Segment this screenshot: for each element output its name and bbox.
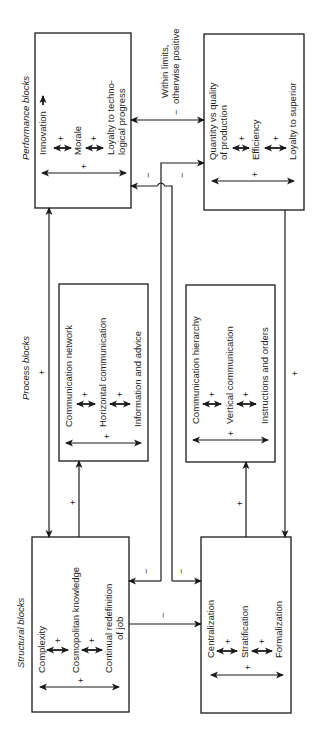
item-communication-network: Communication network xyxy=(63,325,74,427)
box-performance-left: Innovation Morale Loyalty to techno- log… xyxy=(35,33,131,208)
item-continual-redefinition-2: of job xyxy=(114,617,125,640)
item-horizontal-communication: Horizontal communication xyxy=(97,318,108,427)
sign-plus: + xyxy=(250,172,260,177)
sign-plus: + xyxy=(257,639,267,644)
item-stratification: Stratification xyxy=(239,606,250,658)
process-right-up-sign: + xyxy=(235,501,245,506)
sign-plus: + xyxy=(226,431,236,436)
cross-bottom-left-sign: − xyxy=(141,569,151,574)
sign-plus: + xyxy=(271,136,281,141)
cross-bottom-right-sign: − xyxy=(176,569,186,574)
box-process-right: Communication hierarchy Vertical communi… xyxy=(186,285,275,462)
box-performance-right: Quantity vs quality of production Effici… xyxy=(204,34,304,210)
performance-link-label-2: otherwise positive xyxy=(170,28,181,104)
item-centralization: Centralization xyxy=(205,600,216,658)
section-label-process: Process blocks xyxy=(20,336,31,400)
sign-plus: + xyxy=(241,392,251,397)
sign-plus: + xyxy=(79,164,89,169)
box-structural-right: Centralization Stratification Formalizat… xyxy=(201,537,291,713)
sign-plus: + xyxy=(223,639,233,644)
item-morale: Morale xyxy=(72,126,83,155)
sign-plus: + xyxy=(76,678,86,683)
item-communication-hierarchy: Communication hierarchy xyxy=(190,316,201,424)
left-vertical-sign: + xyxy=(37,370,47,375)
right-vertical-sign: + xyxy=(290,371,300,376)
sign-plus: + xyxy=(102,434,112,439)
item-loyalty-techno-2: logical progress xyxy=(116,88,127,155)
sign-plus: + xyxy=(56,136,66,141)
section-label-structural: Structural blocks xyxy=(15,598,26,668)
item-efficiency: Efficiency xyxy=(250,119,261,160)
sign-plus: + xyxy=(243,665,253,670)
box-structural-left: Complexity Cosmopolitan knowledge Contin… xyxy=(32,537,129,712)
item-vertical-communication: Vertical communication xyxy=(224,326,235,424)
sign-plus: + xyxy=(237,136,247,141)
item-information-advice: Information and advice xyxy=(132,331,143,427)
section-label-performance: Performance blocks xyxy=(20,76,31,160)
sign-plus: + xyxy=(89,136,99,141)
item-instructions-orders: Instructions and orders xyxy=(259,327,270,424)
cross-top-right-sign: − xyxy=(177,173,187,178)
sign-plus: + xyxy=(53,638,63,643)
process-left-up-sign: + xyxy=(68,500,78,505)
sign-plus: + xyxy=(207,392,217,397)
cross-top-left-sign: − xyxy=(143,173,153,178)
item-continual-redefinition-1: Continual redefinition xyxy=(103,584,114,673)
item-quantity-quality-2: of production xyxy=(218,105,229,160)
item-loyalty-techno-1: Loyalty to techno- xyxy=(105,80,116,155)
organizational-diagram: Performance blocks Process blocks Struct… xyxy=(0,0,317,738)
sign-plus: + xyxy=(87,638,97,643)
item-formalization: Formalization xyxy=(273,601,284,658)
performance-link-label-1: Within limits, xyxy=(159,45,170,98)
item-complexity: Complexity xyxy=(36,626,47,673)
performance-link-sign: − xyxy=(171,110,181,115)
sign-plus: + xyxy=(115,392,125,397)
sign-plus: + xyxy=(80,392,90,397)
item-innovation: Innovation xyxy=(37,111,48,155)
item-quantity-quality-1: Quantity vs quality xyxy=(207,82,218,160)
item-cosmopolitan-knowledge: Cosmopolitan knowledge xyxy=(70,567,81,673)
structural-link-sign: − xyxy=(158,613,168,618)
item-loyalty-superior: Loyalty to superior xyxy=(287,82,298,160)
box-process-left: Communication network Horizontal communi… xyxy=(59,284,148,461)
